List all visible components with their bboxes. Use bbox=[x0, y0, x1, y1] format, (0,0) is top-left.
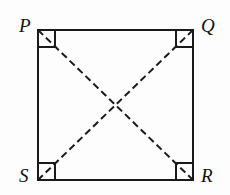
square-diagram-svg bbox=[0, 0, 230, 195]
diagonals bbox=[38, 30, 193, 180]
right-angle-markers bbox=[38, 30, 193, 180]
vertex-label-Q: Q bbox=[201, 16, 215, 35]
diagonal-QS bbox=[38, 30, 193, 180]
diagonal-PR bbox=[38, 30, 193, 180]
vertex-label-S: S bbox=[19, 166, 29, 185]
vertex-label-P: P bbox=[19, 16, 31, 35]
geometry-figure: P Q R S bbox=[0, 0, 230, 195]
square-outline bbox=[38, 30, 193, 180]
vertex-label-R: R bbox=[201, 166, 213, 185]
